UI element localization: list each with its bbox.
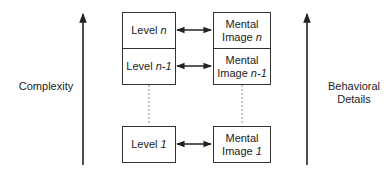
level-1-var: 1 [161, 138, 167, 150]
level-n-prefix: Level [131, 24, 160, 36]
level-n-1-prefix: Level [126, 60, 155, 72]
level-1-box: Level 1 [122, 126, 176, 163]
behavioral-label-line1: Behavioral [322, 80, 386, 93]
mental-image-1-box: Mental Image 1 [213, 126, 271, 163]
mental-image-1-line1: Mental [222, 132, 262, 145]
level-n-box: Level n [122, 12, 176, 49]
mental-image-n-1-line1: Mental [217, 54, 267, 67]
complexity-label: Complexity [14, 80, 78, 93]
behavioral-details-label: Behavioral Details [322, 80, 386, 106]
mental-image-n-var: n [256, 31, 262, 43]
level-n-1-var: n-1 [156, 60, 172, 72]
mental-image-n-prefix: Image [222, 31, 256, 43]
level-n-1-box: Level n-1 [122, 48, 176, 85]
mental-image-1-var: 1 [256, 145, 262, 157]
level-n-var: n [161, 24, 167, 36]
mental-image-n-box: Mental Image n [213, 12, 271, 49]
mental-image-n-1-var: n-1 [251, 67, 267, 79]
mental-image-1-prefix: Image [222, 145, 256, 157]
mental-image-n-line1: Mental [222, 18, 262, 31]
mental-image-n-1-box: Mental Image n-1 [213, 48, 271, 85]
level-1-prefix: Level [131, 138, 160, 150]
behavioral-label-line2: Details [322, 93, 386, 106]
mental-image-n-1-prefix: Image [217, 67, 251, 79]
